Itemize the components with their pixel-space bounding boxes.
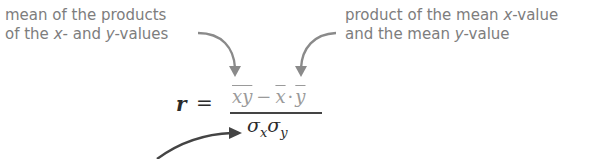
sigma-x: σ [247, 114, 260, 136]
curved-arrow-left-icon [198, 33, 241, 77]
dot-operator: · [288, 86, 294, 107]
subscript-y: y [280, 125, 287, 140]
arrows-layer [0, 0, 589, 159]
minus-sign: − [256, 86, 271, 107]
formula-equals: = [196, 91, 213, 115]
correlation-formula-diagram: mean of the products of the x- and y-val… [0, 0, 589, 159]
sigma-y: σ [267, 114, 280, 136]
formula-numerator: xy−x·y [232, 86, 305, 107]
mean-y: y [295, 86, 305, 107]
curved-arrow-right-icon [295, 33, 336, 77]
mean-xy: xy [232, 86, 252, 107]
formula-denominator: σxσy [247, 114, 288, 140]
mean-x: x [275, 86, 285, 107]
curved-arrow-bottom-icon [157, 127, 242, 159]
formula-r: r [176, 92, 187, 116]
